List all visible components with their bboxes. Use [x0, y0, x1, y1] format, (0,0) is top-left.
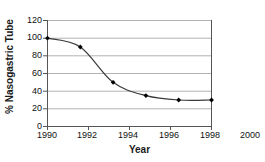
- chart-container: % Nasogastric Tube 120 100 80 60 40 20 0…: [0, 0, 265, 162]
- y-axis-ticks: [43, 21, 47, 127]
- data-point-2000: [209, 98, 214, 103]
- gridlines: [47, 21, 212, 109]
- data-point-1996: [144, 93, 149, 98]
- x-axis-ticks: [48, 127, 212, 131]
- data-point-1998: [176, 98, 181, 103]
- x-axis-title-text: Year: [129, 144, 150, 155]
- data-point-1990: [45, 36, 50, 41]
- x-axis-title: Year: [0, 144, 265, 155]
- data-series-markers: [45, 36, 214, 103]
- plot-area: [0, 0, 265, 162]
